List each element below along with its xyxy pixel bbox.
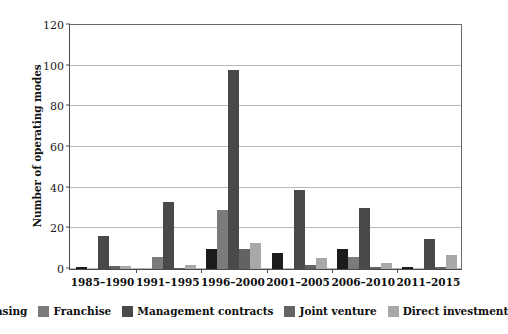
legend-label: Joint venture (299, 305, 376, 317)
y-axis-tick-label: 120 (18, 19, 70, 32)
bar-group-bars (201, 25, 266, 269)
y-axis-tick-label: 80 (18, 100, 70, 113)
bar (305, 265, 316, 269)
y-axis-tick-mark (66, 24, 70, 25)
bar (337, 249, 348, 269)
x-axis-label: 1996–2000 (200, 276, 265, 288)
bar (98, 236, 109, 269)
bar (185, 265, 196, 269)
x-axis-label: 2001–2005 (266, 276, 331, 288)
bar (435, 267, 446, 269)
bar (228, 70, 239, 269)
y-axis-tick-label: 20 (18, 222, 70, 235)
bar (206, 249, 217, 269)
bar (174, 268, 185, 269)
bar (250, 243, 261, 269)
x-axis-label: 2011–2015 (396, 276, 461, 288)
bar (120, 266, 131, 269)
legend-swatch-icon (38, 306, 49, 317)
legend-item[interactable]: Joint venture (284, 305, 376, 317)
x-axis-group-tick (267, 269, 268, 273)
bar (316, 258, 327, 269)
legend-swatch-icon (284, 306, 295, 317)
bar (359, 208, 370, 269)
bar-group-bars (71, 25, 136, 269)
legend-swatch-icon (122, 306, 133, 317)
bar (76, 267, 87, 269)
chart-legend: LeasingFranchiseManagement contractsJoin… (0, 305, 475, 317)
bar (424, 239, 435, 270)
y-axis-tick-mark (66, 146, 70, 147)
legend-item[interactable]: Direct investment (388, 305, 508, 317)
bar (348, 257, 359, 269)
y-axis-tick-mark (66, 186, 70, 187)
bar (239, 249, 250, 269)
x-axis-group-tick (201, 269, 202, 273)
bar (163, 202, 174, 269)
bar (446, 255, 457, 269)
bar (217, 210, 228, 269)
y-axis-tick-label: 40 (18, 181, 70, 194)
x-axis-group-tick (136, 269, 137, 273)
bar (272, 253, 283, 269)
x-axis-group-tick (397, 269, 398, 273)
bar-group (267, 25, 332, 269)
x-axis-label: 1991–1995 (135, 276, 200, 288)
bar-group (201, 25, 266, 269)
bar (370, 267, 381, 269)
y-axis-tick-mark (66, 268, 70, 269)
bar-group-bars (397, 25, 462, 269)
plot-area: 020406080100120 (69, 24, 462, 270)
bar (294, 190, 305, 269)
bar (381, 263, 392, 269)
x-axis-label: 2006–2010 (331, 276, 396, 288)
y-axis-tick-mark (66, 227, 70, 228)
bar (109, 266, 120, 269)
legend-label: Leasing (0, 305, 27, 317)
legend-label: Management contracts (137, 305, 273, 317)
legend-item[interactable]: Leasing (0, 305, 27, 317)
bar (402, 267, 413, 269)
bar-group (397, 25, 462, 269)
bar-group (71, 25, 136, 269)
legend-label: Direct investment (403, 305, 508, 317)
legend-label: Franchise (53, 305, 111, 317)
bar-groups (71, 25, 460, 269)
y-axis-tick-mark (66, 105, 70, 106)
legend-swatch-icon (388, 306, 399, 317)
legend-item[interactable]: Franchise (38, 305, 111, 317)
bar (152, 257, 163, 269)
y-axis-tick-label: 60 (18, 141, 70, 154)
y-axis-tick-label: 100 (18, 59, 70, 72)
bar-group (136, 25, 201, 269)
y-axis-tick-label: 0 (18, 263, 70, 276)
bar-group-bars (267, 25, 332, 269)
bar-group-bars (332, 25, 397, 269)
bar-group (332, 25, 397, 269)
x-axis-group-tick (332, 269, 333, 273)
legend-item[interactable]: Management contracts (122, 305, 273, 317)
bar-group-bars (136, 25, 201, 269)
x-axis-label: 1985–1990 (70, 276, 135, 288)
y-axis-tick-mark (66, 64, 70, 65)
